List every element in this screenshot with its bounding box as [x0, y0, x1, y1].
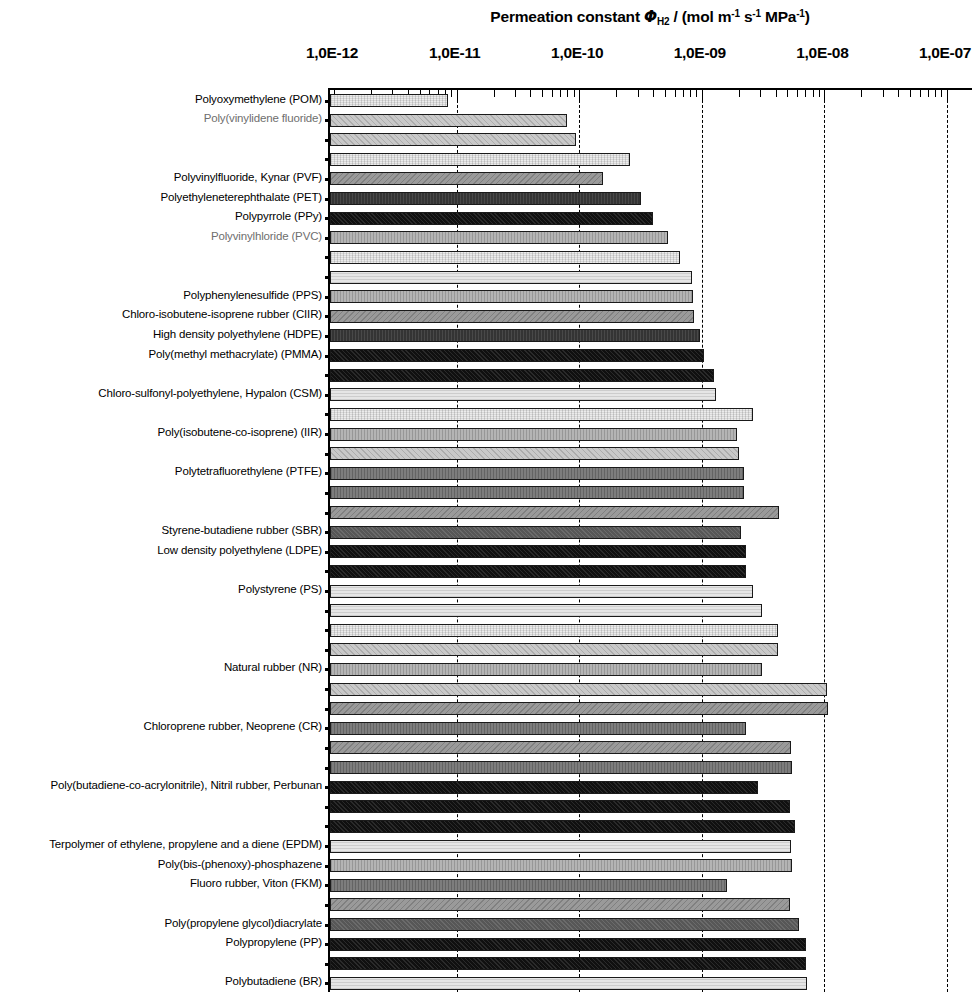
- exponent-s: -1: [752, 8, 761, 19]
- bar: [330, 761, 792, 774]
- y-axis-label: Polytetrafluorethylene (PTFE): [175, 465, 322, 477]
- y-axis-label: Poly(bis-(phenoxy)-phosphazene: [158, 858, 322, 870]
- axis-tick: [805, 90, 806, 97]
- axis-tick: [941, 90, 942, 97]
- bar: [330, 565, 746, 578]
- bar: [330, 898, 790, 911]
- exponent-m: -1: [731, 8, 740, 19]
- bar: [330, 585, 753, 598]
- bar: [330, 545, 746, 558]
- axis-tick: [653, 90, 654, 97]
- bar: [330, 918, 799, 931]
- axis-tick: [787, 90, 788, 97]
- bar: [330, 840, 791, 853]
- axis-tick: [494, 90, 495, 97]
- bar: [330, 957, 806, 970]
- bar: [330, 349, 704, 362]
- bar: [330, 820, 795, 833]
- axis-tick: [739, 90, 740, 97]
- phi-symbol: Φ: [644, 8, 657, 26]
- plot-area: [328, 88, 972, 992]
- chart-axis-title: Permeation constant ΦH2 / (mol m-1 s-1 M…: [330, 8, 970, 27]
- y-axis-label: Polypyrrole (PPy): [235, 210, 322, 222]
- y-axis-label: Styrene-butadiene rubber (SBR): [162, 524, 322, 536]
- axis-tick: [760, 90, 761, 97]
- bar: [330, 251, 680, 264]
- bar: [330, 663, 762, 676]
- axis-tick: [898, 90, 899, 97]
- axis-tick: [530, 90, 531, 97]
- y-axis-label: Poly(isobutene-co-isoprene) (IIR): [158, 426, 322, 438]
- bar: [330, 408, 753, 421]
- y-axis-label: Poly(vinylidene fluoride): [204, 112, 322, 124]
- axis-tick: [560, 90, 561, 97]
- phi-subscript-h: H: [657, 16, 664, 27]
- bar: [330, 231, 668, 244]
- y-axis-label: Poly(propylene glycol)diacrylate: [164, 917, 322, 929]
- axis-tick: [696, 90, 697, 97]
- y-axis-category-labels: Polyoxymethylene (POM)Poly(vinylidene fl…: [0, 0, 322, 995]
- axis-tick: [690, 90, 691, 97]
- bar: [330, 114, 567, 127]
- bar: [330, 329, 700, 342]
- y-axis-label: High density polyethylene (HDPE): [153, 328, 322, 340]
- axis-title-s: s: [740, 8, 753, 25]
- axis-tick: [567, 90, 568, 97]
- axis-tick: [451, 90, 452, 97]
- axis-tick: [776, 90, 777, 97]
- axis-tick: [824, 90, 825, 101]
- bar: [330, 428, 737, 441]
- bar: [330, 702, 828, 715]
- bar: [330, 486, 744, 499]
- y-axis-label: Polyoxymethylene (POM): [195, 93, 322, 105]
- axis-tick: [910, 90, 911, 97]
- bar: [330, 94, 448, 107]
- y-axis-label: Chloro-sulfonyl-polyethylene, Hypalon (C…: [98, 387, 322, 399]
- y-axis-label: Polystyrene (PS): [238, 583, 322, 595]
- axis-tick: [819, 90, 820, 97]
- bar: [330, 624, 778, 637]
- bar: [330, 879, 727, 892]
- y-axis-label: Polypropylene (PP): [226, 936, 322, 948]
- axis-tick: [579, 90, 580, 101]
- bar: [330, 388, 716, 401]
- axis-tick: [638, 90, 639, 97]
- y-axis-label: Poly(methyl methacrylate) (PMMA): [149, 348, 322, 360]
- axis-tick: [797, 90, 798, 97]
- y-axis-label: Polybutadiene (BR): [225, 975, 322, 987]
- gridline-2: [579, 90, 580, 992]
- x-tick-label-5: 1,0E-07: [919, 44, 971, 62]
- axis-title-lead: Permeation constant: [490, 8, 644, 25]
- axis-tick: [920, 90, 921, 97]
- x-tick-label-1: 1,0E-11: [429, 44, 480, 62]
- axis-tick: [813, 90, 814, 97]
- y-axis-label: Polyvinylfluoride, Kynar (PVF): [174, 171, 322, 183]
- bar: [330, 153, 630, 166]
- axis-title-mid: / (mol m: [669, 8, 731, 25]
- bar: [330, 212, 653, 225]
- bar: [330, 271, 692, 284]
- bar: [330, 369, 714, 382]
- axis-tick: [702, 90, 703, 101]
- y-axis-label: Natural rubber (NR): [224, 661, 322, 673]
- bar: [330, 643, 778, 656]
- bar: [330, 800, 790, 813]
- axis-tick: [861, 90, 862, 97]
- y-axis-label: Chloro-isobutene-isoprene rubber (CIIR): [122, 308, 322, 320]
- bar: [330, 172, 603, 185]
- axis-tick: [947, 90, 948, 101]
- bar: [330, 781, 758, 794]
- y-axis-label: Polyvinylhloride (PVC): [211, 230, 322, 242]
- bar: [330, 133, 576, 146]
- y-axis-label: Chloroprene rubber, Neoprene (CR): [143, 720, 322, 732]
- axis-tick: [935, 90, 936, 97]
- permeation-constant-bar-chart: Permeation constant ΦH2 / (mol m-1 s-1 M…: [0, 0, 975, 995]
- bar: [330, 938, 806, 951]
- bar: [330, 604, 762, 617]
- axis-tick: [574, 90, 575, 97]
- bar: [330, 192, 641, 205]
- axis-tick: [552, 90, 553, 97]
- axis-tick: [457, 90, 458, 101]
- x-tick-label-4: 1,0E-08: [796, 44, 848, 62]
- axis-tick: [928, 90, 929, 97]
